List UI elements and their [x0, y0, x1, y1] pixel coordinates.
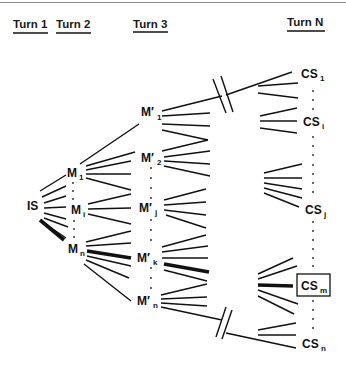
- edges-cs1: [258, 83, 298, 98]
- edges-is: [40, 175, 68, 240]
- node-mn: M n: [68, 242, 85, 258]
- edges-csi: [260, 108, 297, 133]
- edges-m-prime-n: [161, 284, 222, 320]
- edges-mi: [88, 194, 131, 224]
- node-m-prime-2: M′ 2: [141, 151, 162, 167]
- svg-text:2: 2: [157, 158, 162, 167]
- node-m-prime-n: M′ n: [137, 294, 158, 310]
- svg-text:CS: CS: [303, 115, 320, 129]
- header-turn-1: Turn 1: [13, 18, 48, 33]
- game-tree-diagram: Turn 1 Turn 2 Turn 3 Turn N IS M 1 M i M: [0, 0, 346, 369]
- edges-m1: [80, 124, 139, 190]
- svg-text:CS: CS: [301, 279, 318, 293]
- svg-text:i: i: [322, 122, 324, 131]
- svg-text:1: 1: [157, 113, 162, 122]
- svg-text:Turn 3: Turn 3: [133, 18, 167, 30]
- node-m-prime-j: M′ j: [139, 201, 157, 217]
- svg-text:m: m: [320, 286, 327, 295]
- edges-m-prime-j: [164, 189, 206, 228]
- edges-mn: [84, 231, 131, 301]
- svg-text:M′: M′: [141, 151, 154, 165]
- svg-text:M: M: [71, 203, 81, 217]
- svg-text:CS: CS: [301, 67, 318, 81]
- svg-text:Turn N: Turn N: [287, 16, 323, 28]
- edges-m-prime-2: [162, 140, 210, 176]
- node-m1: M 1: [67, 166, 84, 182]
- svg-text:j: j: [154, 208, 157, 217]
- node-cs-1: CS 1: [301, 67, 325, 83]
- node-initial-state: IS: [27, 199, 38, 213]
- svg-text:Turn 1: Turn 1: [13, 18, 48, 30]
- svg-text:M′: M′: [141, 105, 154, 119]
- svg-text:CS: CS: [302, 337, 319, 351]
- svg-text:n: n: [321, 344, 326, 353]
- node-m-prime-1: M′ 1: [141, 105, 162, 122]
- svg-text:M′: M′: [139, 201, 152, 215]
- svg-text:IS: IS: [27, 199, 38, 213]
- break-mark-top: [213, 72, 292, 113]
- svg-text:i: i: [83, 210, 85, 219]
- edges-m-prime-k: [162, 235, 209, 281]
- break-mark-bottom: [216, 307, 296, 348]
- svg-text:1: 1: [79, 173, 84, 182]
- svg-text:M′: M′: [137, 251, 150, 265]
- node-m-prime-k: M′ k: [137, 251, 158, 267]
- svg-text:M: M: [67, 166, 77, 180]
- node-cs-m-boxed: CS m: [297, 274, 330, 296]
- node-cs-i: CS i: [303, 115, 324, 131]
- edges-csn: [258, 323, 296, 335]
- header-turn-2: Turn 2: [56, 18, 91, 33]
- svg-text:1: 1: [320, 74, 325, 83]
- edges-m-prime-1: [162, 96, 222, 140]
- node-cs-n: CS n: [302, 337, 326, 353]
- ellipsis-turn3: [150, 167, 152, 289]
- svg-text:M′: M′: [137, 294, 150, 308]
- svg-text:n: n: [153, 301, 158, 310]
- node-cs-j: CS j: [305, 203, 326, 219]
- svg-text:k: k: [153, 258, 158, 267]
- edges-csj: [264, 164, 302, 207]
- svg-text:M: M: [68, 242, 78, 256]
- svg-text:CS: CS: [305, 203, 322, 217]
- header-turn-n: Turn N: [287, 16, 325, 31]
- svg-text:j: j: [323, 210, 326, 219]
- edges-csm: [258, 258, 298, 314]
- node-mi: M i: [71, 203, 85, 219]
- svg-text:n: n: [80, 249, 85, 258]
- svg-text:Turn 2: Turn 2: [56, 18, 90, 30]
- header-turn-3: Turn 3: [133, 18, 168, 32]
